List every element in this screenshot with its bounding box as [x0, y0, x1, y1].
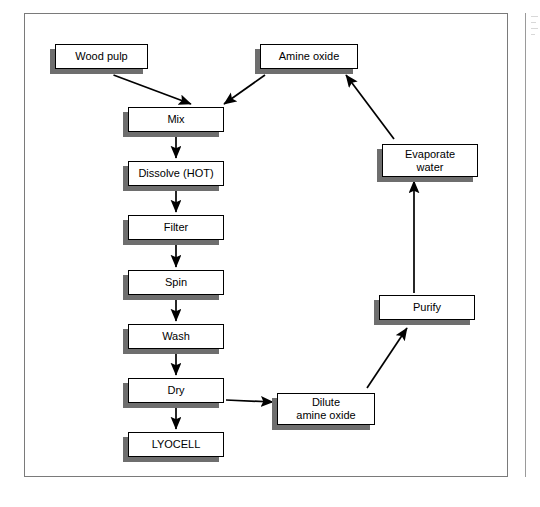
node-evaporate: Evaporate water — [382, 144, 478, 177]
node-box-wash: Wash — [128, 324, 224, 349]
node-box-evaporate: Evaporate water — [382, 144, 478, 177]
node-label-amine-oxide: Amine oxide — [275, 50, 344, 63]
node-label-dilute: Dilute amine oxide — [292, 396, 359, 422]
node-box-lyocell: LYOCELL — [128, 432, 224, 457]
node-box-spin: Spin — [128, 270, 224, 295]
node-dilute: Dilute amine oxide — [277, 393, 375, 425]
node-label-filter: Filter — [160, 221, 192, 234]
node-box-dry: Dry — [128, 378, 224, 403]
node-label-lyocell: LYOCELL — [148, 438, 205, 451]
node-box-purify: Purify — [379, 295, 475, 320]
node-label-wash: Wash — [158, 330, 194, 343]
node-box-wood-pulp: Wood pulp — [55, 44, 148, 69]
node-filter: Filter — [128, 215, 224, 240]
figure-page: Wood pulpAmine oxideMixDissolve (HOT)Fil… — [0, 0, 540, 507]
node-box-filter: Filter — [128, 215, 224, 240]
node-purify: Purify — [379, 295, 475, 320]
node-label-dissolve: Dissolve (HOT) — [134, 167, 217, 180]
node-label-wood-pulp: Wood pulp — [71, 50, 131, 63]
node-label-mix: Mix — [163, 113, 188, 126]
page-margin-rule — [525, 13, 526, 477]
node-box-amine-oxide: Amine oxide — [260, 44, 358, 69]
margin-mark — [531, 34, 535, 35]
node-wood-pulp: Wood pulp — [55, 44, 148, 69]
node-dry: Dry — [128, 378, 224, 403]
node-label-spin: Spin — [161, 276, 191, 289]
node-amine-oxide: Amine oxide — [260, 44, 358, 69]
node-label-purify: Purify — [409, 301, 445, 314]
margin-mark — [531, 28, 538, 29]
node-lyocell: LYOCELL — [128, 432, 224, 457]
node-label-evaporate: Evaporate water — [401, 148, 459, 174]
node-box-dissolve: Dissolve (HOT) — [128, 161, 224, 186]
margin-mark — [531, 16, 538, 17]
node-mix: Mix — [128, 107, 224, 132]
node-spin: Spin — [128, 270, 224, 295]
node-box-mix: Mix — [128, 107, 224, 132]
margin-mark — [531, 22, 536, 23]
figure-frame — [24, 13, 508, 477]
node-box-dilute: Dilute amine oxide — [277, 393, 375, 425]
node-dissolve: Dissolve (HOT) — [128, 161, 224, 186]
node-label-dry: Dry — [163, 384, 188, 397]
margin-marks — [531, 16, 539, 46]
node-wash: Wash — [128, 324, 224, 349]
